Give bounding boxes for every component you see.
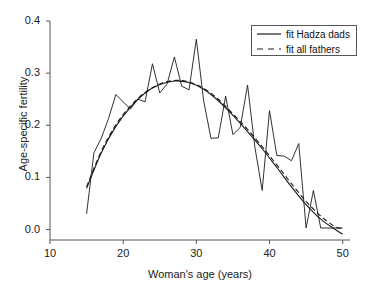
x-tick-marks [50, 240, 343, 244]
y-axis-label: Age-specific fertility [17, 54, 29, 194]
y-tick-label-4: 0.4 [14, 14, 40, 26]
data-group [87, 39, 343, 234]
legend-entry-fit-hadza-dads: fit Hadza dads [252, 27, 356, 41]
legend-dashed-line-icon [256, 44, 282, 54]
x-tick-label-3: 40 [257, 247, 283, 259]
y-tick-marks [46, 21, 50, 230]
observed-data-line [87, 39, 343, 228]
legend-entry-fit-all-fathers: fit all fathers [252, 42, 356, 56]
x-tick-label-2: 30 [183, 247, 209, 259]
x-tick-label-1: 20 [110, 247, 136, 259]
legend-label-fit-hadza-dads: fit Hadza dads [286, 29, 350, 40]
fertility-chart-figure: 0.00.10.20.30.4 1020304050 Woman's age (… [0, 0, 366, 296]
legend-solid-line-icon [256, 29, 282, 39]
chart-legend: fit Hadza dads fit all fathers [251, 25, 357, 56]
y-tick-label-0: 0.0 [14, 223, 40, 235]
x-tick-label-4: 50 [330, 247, 356, 259]
legend-label-fit-all-fathers: fit all fathers [286, 44, 340, 55]
x-tick-label-0: 10 [37, 247, 63, 259]
x-axis-label: Woman's age (years) [80, 268, 320, 280]
